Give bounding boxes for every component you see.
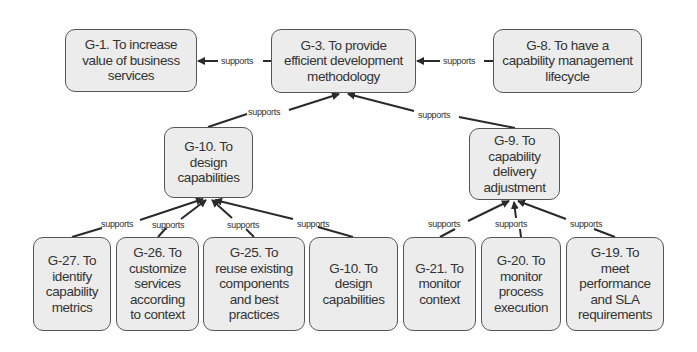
goal-diagram: supports supports supports supports supp… <box>0 0 697 352</box>
edge-g10-g3-b <box>289 94 339 110</box>
edge-label-g26-g10: supports <box>152 220 184 230</box>
goal-node-text: capability <box>46 284 98 300</box>
goal-node-g21[interactable]: G-21. To monitor context <box>403 237 476 331</box>
edge-g10b-g10-b <box>215 200 293 219</box>
edge-g20-g9-b <box>514 202 516 218</box>
goal-node-text: practices <box>215 307 293 323</box>
edge-label-g9-g3: supports <box>418 110 450 120</box>
edge-label-g10b-g10: supports <box>297 219 329 229</box>
goal-node-text: capability management <box>502 53 632 69</box>
goal-node-text: requirements <box>578 307 652 323</box>
goal-node-text: to context <box>129 307 186 323</box>
goal-node-g26[interactable]: G-26. To customize services according to… <box>116 237 199 331</box>
edge-label-g20-g9: supports <box>495 219 527 229</box>
goal-node-text: G-25. To <box>215 245 293 261</box>
goal-node-text: G-10. To <box>323 261 385 277</box>
edge-label-g25-g10: supports <box>227 220 259 230</box>
goal-node-text: capability <box>483 149 545 165</box>
edge-label-g8-g3: supports <box>443 56 475 66</box>
goal-node-text: efficient development <box>284 53 403 69</box>
goal-node-text: methodology <box>284 69 403 85</box>
goal-node-text: capabilities <box>178 170 240 186</box>
goal-node-text: capabilities <box>323 292 385 308</box>
goal-node-text: process <box>494 284 548 300</box>
goal-node-text: G-26. To <box>129 245 186 261</box>
goal-node-g9[interactable]: G-9. To capability delivery adjustment <box>469 128 560 200</box>
goal-node-text: G-27. To <box>46 253 98 269</box>
goal-node-text: G-10. To <box>178 139 240 155</box>
edge-g27-g10-a <box>72 228 102 237</box>
edge-g20-g9-a <box>520 229 521 237</box>
edge-g19-g9-b <box>518 201 566 219</box>
goal-node-text: components <box>215 276 293 292</box>
goal-node-text: context <box>415 292 463 308</box>
goal-node-text: and SLA <box>578 292 652 308</box>
edge-label-g21-g9: supports <box>428 219 460 229</box>
edge-g10-g3-a <box>208 114 247 127</box>
goal-node-text: services <box>82 68 180 84</box>
goal-node-text: G-1. To increase <box>82 37 180 53</box>
goal-node-text: G-3. To provide <box>284 38 403 54</box>
goal-node-g20[interactable]: G-20. To monitor process execution <box>481 237 561 331</box>
goal-node-text: customize <box>129 261 186 277</box>
goal-node-g3[interactable]: G-3. To provide efficient development me… <box>271 29 416 93</box>
goal-node-text: monitor <box>494 269 548 285</box>
goal-node-g27[interactable]: G-27. To identify capability metrics <box>33 237 111 331</box>
edge-label-g19-g9: supports <box>570 219 602 229</box>
edge-label-g3-g1: supports <box>221 56 253 66</box>
edge-label-g10-g3: supports <box>248 107 280 117</box>
goal-node-text: design <box>178 155 240 171</box>
edge-g21-g9-b <box>468 201 509 221</box>
goal-node-text: G-9. To <box>483 133 545 149</box>
goal-node-text: G-21. To <box>415 261 463 277</box>
goal-node-g25[interactable]: G-25. To reuse existing components and b… <box>203 237 305 331</box>
goal-node-text: G-8. To have a <box>502 38 632 54</box>
goal-node-text: lifecycle <box>502 69 632 85</box>
edge-g9-g3-b <box>348 94 414 111</box>
goal-node-g1[interactable]: G-1. To increase value of business servi… <box>65 29 197 92</box>
goal-node-g19[interactable]: G-19. To meet performance and SLA requir… <box>566 237 664 331</box>
goal-node-text: meet <box>578 261 652 277</box>
edge-g21-g9-a <box>440 229 455 237</box>
goal-node-text: according <box>129 292 186 308</box>
edge-g25-g10-a <box>246 229 254 237</box>
edge-g9-g3-a <box>459 117 515 128</box>
goal-node-text: delivery <box>483 164 545 180</box>
goal-node-text: metrics <box>46 300 98 316</box>
goal-node-text: value of business <box>82 53 180 69</box>
goal-node-text: design <box>323 276 385 292</box>
goal-node-text: G-19. To <box>578 245 652 261</box>
edge-label-g27-g10: supports <box>101 219 133 229</box>
goal-node-text: adjustment <box>483 180 545 196</box>
goal-node-g10-duplicate[interactable]: G-10. To design capabilities <box>309 237 398 331</box>
goal-node-g8[interactable]: G-8. To have a capability management lif… <box>493 29 642 93</box>
goal-node-text: services <box>129 276 186 292</box>
goal-node-text: reuse existing <box>215 261 293 277</box>
goal-node-text: performance <box>578 276 652 292</box>
goal-node-text: and best <box>215 292 293 308</box>
goal-node-text: G-20. To <box>494 253 548 269</box>
edge-g19-g9-a <box>594 229 615 237</box>
goal-node-g10[interactable]: G-10. To design capabilities <box>164 127 253 198</box>
goal-node-text: execution <box>494 300 548 316</box>
goal-node-text: identify <box>46 269 98 285</box>
goal-node-text: monitor <box>415 276 463 292</box>
